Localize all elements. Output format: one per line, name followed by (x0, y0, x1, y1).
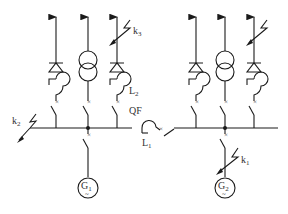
reactor-icon (189, 72, 210, 98)
label-k2: k2 (12, 115, 21, 128)
reactor-icon (49, 72, 70, 98)
label-L1: L1 (142, 137, 152, 150)
svg-text:×: × (87, 98, 91, 106)
left-feeder-2: × (79, 17, 97, 128)
right-feeder-3: × (247, 17, 268, 128)
diode-triangle-icon (110, 63, 124, 72)
tie-reactor-L1: × (142, 120, 174, 136)
left-feeder-3: × (110, 17, 131, 128)
label-QF: QF (129, 105, 142, 116)
diode-triangle-icon (247, 63, 261, 72)
breaker-icon (83, 106, 88, 115)
generator-G1: × G1 ~ (78, 128, 98, 198)
breaker-QF-icon (164, 129, 174, 136)
diode-triangle-icon (49, 63, 63, 72)
svg-text:×: × (224, 98, 228, 106)
label-k1: k1 (241, 154, 250, 167)
svg-text:~: ~ (222, 190, 226, 198)
breaker-icon (220, 106, 225, 115)
label-k3: k3 (133, 25, 142, 38)
breaker-icon (191, 106, 196, 115)
breaker-icon (220, 139, 225, 148)
right-feeder-2: × (216, 17, 234, 128)
label-L2: L2 (129, 85, 139, 98)
reactor-L2-icon (110, 72, 131, 98)
breaker-icon (51, 106, 56, 115)
svg-text:×: × (195, 98, 199, 106)
svg-text:×: × (116, 98, 120, 106)
svg-text:×: × (159, 125, 163, 133)
fault-k1-icon (216, 148, 238, 175)
fault-right-feeder-icon (246, 20, 267, 46)
right-feeder-1: × (189, 17, 210, 128)
diode-triangle-icon (189, 63, 203, 72)
generator-G2: × G2 ~ (215, 128, 235, 198)
svg-text:×: × (224, 131, 228, 139)
left-feeder-1: × (49, 17, 70, 128)
svg-text:~: ~ (85, 190, 89, 198)
reactor-L1-icon (142, 120, 160, 133)
svg-text:×: × (55, 98, 59, 106)
svg-text:×: × (87, 131, 91, 139)
breaker-icon (83, 139, 88, 148)
reactor-icon (247, 72, 268, 98)
breaker-icon (112, 106, 117, 115)
breaker-icon (249, 106, 254, 115)
svg-text:×: × (253, 98, 257, 106)
fault-k3-icon (109, 20, 130, 46)
power-system-diagram: k2 × × × k3 L2 QF × (0, 0, 288, 214)
